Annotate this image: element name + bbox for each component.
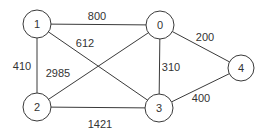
node-3: 3 [145, 94, 173, 122]
node-label: 3 [156, 102, 162, 114]
nodes-group: 01234 [23, 10, 254, 122]
edge-weight-label: 1421 [88, 118, 112, 130]
edge-weight-label: 400 [192, 92, 210, 104]
node-2: 2 [23, 93, 51, 121]
node-1: 1 [23, 10, 51, 38]
edge-weight-label: 612 [76, 37, 94, 49]
node-label: 4 [238, 62, 244, 74]
node-label: 1 [34, 18, 40, 30]
edge-weight-label: 200 [196, 31, 214, 43]
edge-1-0 [37, 24, 160, 25]
graph-diagram: 80061241029853102004001421 01234 [0, 0, 267, 131]
node-4: 4 [228, 55, 254, 81]
edge-weight-label: 410 [13, 60, 31, 72]
node-0: 0 [146, 11, 174, 39]
edge-weight-label: 2985 [46, 67, 70, 79]
edge-2-3 [37, 107, 159, 108]
node-label: 2 [34, 101, 40, 113]
node-label: 0 [157, 19, 163, 31]
edge-weight-label: 310 [162, 61, 180, 73]
edge-weight-label: 800 [88, 10, 106, 22]
